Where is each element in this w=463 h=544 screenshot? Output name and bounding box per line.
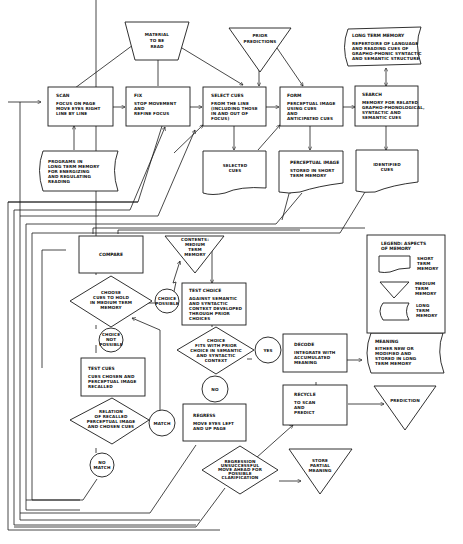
svg-text:MEANING: MEANING [375,339,399,344]
node-programs-ltm: PROGRAMS IN LONG TERM MEMORY FOR ENERGIZ… [40,151,119,191]
svg-text:TERM MEMORY: TERM MEMORY [375,361,412,366]
node-search: SEARCH MEMORY FOR RELATED GRAPHO-PHONOLO… [355,86,425,126]
node-decode: DECODE INTEGRATE WITH ACCUMULATED MEANIN… [283,334,347,372]
svg-text:SEARCH: SEARCH [362,92,382,97]
svg-text:PRIOR: PRIOR [252,33,268,38]
svg-text:READ: READ [150,44,164,49]
svg-text:REGRESS: REGRESS [193,413,216,418]
svg-text:CUES: CUES [381,167,394,172]
svg-text:MEMORY: MEMORY [417,266,439,271]
node-form: FORM PERCEPTUAL IMAGE USING CUES AND ANT… [280,87,343,126]
svg-text:DECODE: DECODE [294,342,314,347]
node-choice-possible: CHOICE POSSIBLE [155,289,179,313]
svg-text:CONTEXT: CONTEXT [205,358,228,363]
svg-text:TEST CUES: TEST CUES [88,366,115,371]
svg-text:LINE BY LINE: LINE BY LINE [56,111,87,116]
svg-text:LONG TERM MEMORY: LONG TERM MEMORY [352,33,405,38]
node-scan: SCAN FOCUS ON PAGE MOVE EYES RIGHT LINE … [48,87,113,126]
svg-text:MATERIAL: MATERIAL [145,32,170,37]
svg-text:MEMORY: MEMORY [415,291,437,296]
node-test-choice: TEST CHOICE AGAINST SEMANTIC AND SYNTACT… [182,283,246,325]
node-yes: YES [255,337,281,363]
node-regression-unsuccessful-diamond: REGRESSION UNSUCCESSFUL MOVE AHEAD FOR P… [202,446,278,494]
svg-text:RECYCLE: RECYCLE [294,392,316,397]
svg-text:NO: NO [211,387,219,392]
svg-text:RECALLED: RECALLED [88,384,113,389]
svg-text:FIX: FIX [134,93,143,98]
node-prediction: PREDICTION [374,386,436,430]
svg-text:PERCEPTUAL IMAGE: PERCEPTUAL IMAGE [290,160,339,165]
svg-text:TERM MEMORY: TERM MEMORY [290,173,327,178]
svg-text:SEMANTIC CUES: SEMANTIC CUES [362,115,401,120]
node-store-partial-meaning: STORE PARTIAL MEANING [289,449,352,494]
node-match: MATCH [149,410,175,436]
node-no: NO [202,376,228,402]
svg-text:MEANING: MEANING [309,468,332,473]
svg-text:MATCH: MATCH [153,421,170,426]
node-perceptual-image: PERCEPTUAL IMAGE STORED IN SHORT TERM ME… [279,151,343,193]
svg-text:READING: READING [48,179,70,184]
svg-text:PREDICTIONS: PREDICTIONS [244,39,277,44]
node-regress: REGRESS MOVE EYES LEFT AND UP PAGE [183,404,246,441]
svg-text:CLARIFICATION: CLARIFICATION [222,475,259,480]
svg-text:MEMORY: MEMORY [184,252,206,257]
node-select-cues: SELECT CUES FROM THE LINE (INCLUDING THO… [203,87,266,126]
svg-text:MEANING: MEANING [294,360,317,365]
svg-text:AND CHOSEN CUES: AND CHOSEN CUES [88,424,135,429]
node-long-term-memory: LONG TERM MEMORY REPERTOIRE OF LANGUAGE … [345,27,422,66]
svg-text:TEST CHOICE: TEST CHOICE [189,288,221,293]
node-selected-cues: SELECTED CUES [203,151,266,195]
svg-text:MEMORY: MEMORY [416,313,438,318]
node-identified-cues: IDENTIFIED CUES [356,150,418,192]
svg-text:OF MEMORY: OF MEMORY [381,246,412,251]
svg-text:YES: YES [262,348,272,353]
svg-text:MATCH: MATCH [93,465,110,470]
node-contents-medium-term-memory: CONTENTS: MEDIUM TERM MEMORY [165,236,224,273]
node-recycle: RECYCLE TO SCAN AND PREDICT [283,385,347,425]
node-fix: FIX STOP MOVEMENT AND REFINE FOCUS [126,87,190,126]
node-material-to-be-read: MATERIAL TO BE READ [125,22,189,60]
svg-text:SELECT CUES: SELECT CUES [211,93,244,98]
legend: LEGEND: ASPECTS OF MEMORY SHORT TERM MEM… [367,235,445,333]
svg-text:MEMORY: MEMORY [100,305,122,310]
svg-text:PREDICT: PREDICT [294,410,315,415]
reading-process-flowchart: MATERIAL TO BE READ PRIOR PREDICTIONS LO… [0,0,463,544]
svg-text:COMPARE: COMPARE [99,252,123,257]
svg-text:FORM: FORM [287,93,301,98]
node-choose-cues-diamond: CHOOSE CUES TO HOLD IN MEDIUM TERM MEMOR… [70,276,152,327]
svg-text:CUES: CUES [229,168,242,173]
svg-text:POSSIBLE: POSSIBLE [155,301,179,306]
node-meaning: MEANING EITHER NEW OR MODIFIED AND STORE… [367,333,444,373]
svg-text:AND UP PAGE: AND UP PAGE [193,426,226,431]
node-test-cues: TEST CUES CUES CHOSEN AND PERCEPTUAL IMA… [81,358,145,396]
svg-text:CHOICES: CHOICES [189,316,210,321]
svg-text:TO BE: TO BE [150,38,164,43]
node-choice-fits-diamond: CHOICE FITS WITH PRIOR CHOICE IN SEMANTI… [177,327,254,374]
svg-text:ANTICIPATED CUES: ANTICIPATED CUES [287,116,333,121]
svg-text:FOCUS): FOCUS) [211,116,229,121]
svg-text:AND SEMANTIC STRUCTURE: AND SEMANTIC STRUCTURE [352,56,420,61]
svg-text:POSSIBLE: POSSIBLE [99,342,123,347]
svg-text:REFINE FOCUS: REFINE FOCUS [134,111,169,116]
node-no-match: NO MATCH [90,453,114,477]
svg-text:SCAN: SCAN [56,93,70,98]
node-compare: COMPARE [79,236,143,273]
svg-text:PREDICTION: PREDICTION [390,398,420,403]
node-prior-predictions: PRIOR PREDICTIONS [229,28,291,72]
node-choice-not-possible: CHOICE NOT POSSIBLE [99,328,123,352]
node-relation-diamond: RELATION OF RECALLED PERCEPTUAL IMAGE AN… [70,398,149,444]
